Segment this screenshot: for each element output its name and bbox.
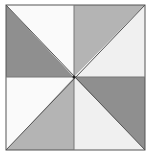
pinwheel-diagram (0, 0, 151, 157)
center-point (73, 76, 76, 79)
